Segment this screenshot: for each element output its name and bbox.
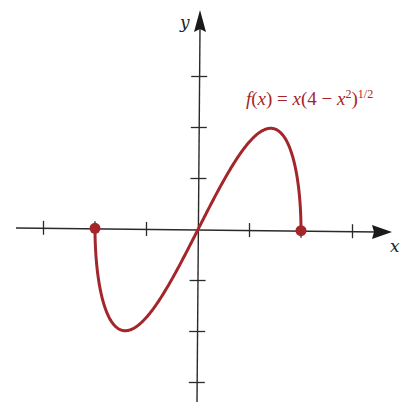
y-axis-label: y [179,12,190,32]
y-axis-arrow-icon [194,10,206,32]
y-axis: y [179,10,207,402]
function-label: f(x) = x(4 − x2)1/2 [246,87,373,110]
label-exponent: 1/2 [358,87,373,101]
left-endpoint-dot [90,223,101,234]
x-axis-arrow-icon [372,225,392,239]
right-endpoint-dot [296,225,307,236]
label-mid: (4 − [301,88,337,110]
x-axis-label: x [390,236,400,256]
y-axis-line [197,28,200,402]
function-plot: x y f(x) = x(4 − x2)1/2 [0,0,411,405]
label-eq: ) = [266,88,293,110]
x-axis: x [16,221,400,256]
